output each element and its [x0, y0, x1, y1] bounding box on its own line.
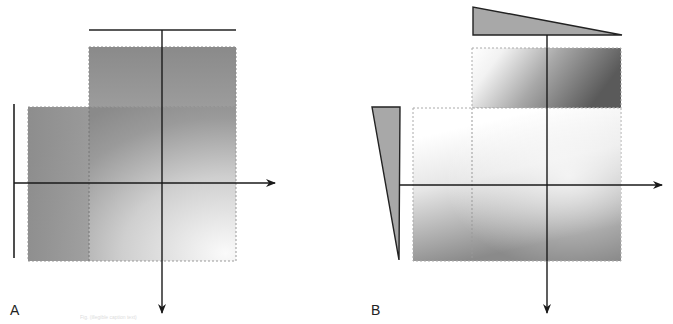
panel-b-left-wedge	[372, 107, 400, 260]
panel-b	[372, 7, 662, 313]
panel-b-label: B	[371, 302, 380, 318]
figure-canvas	[0, 0, 673, 324]
panel-b-top-wedge	[473, 7, 622, 35]
panel-a-lower-left-strip	[28, 107, 89, 261]
panel-a	[14, 30, 275, 313]
figure-caption: Fig. (illegible caption text)	[80, 314, 320, 320]
panel-a-label: A	[10, 302, 19, 318]
